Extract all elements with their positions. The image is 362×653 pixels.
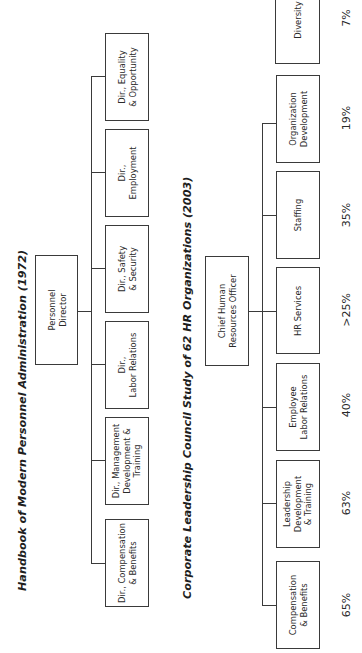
- chart2-root-box: Chief Human Resources Officer: [205, 256, 249, 366]
- chart1-root-connector: [77, 311, 92, 312]
- chart1-root-label: Personnel Director: [46, 290, 67, 331]
- chart2-spine: [262, 123, 263, 605]
- chart2-box-employee-labor-relations: Employee Labor Relations: [276, 363, 320, 451]
- pct-compensation-benefits: 65%: [340, 593, 353, 617]
- chart2-connector: [262, 503, 276, 504]
- chart1-box-employment: Dir., Employment: [105, 129, 149, 217]
- chart1-connector: [91, 268, 105, 269]
- chart1-spine: [91, 76, 92, 564]
- chart1-connector: [91, 460, 105, 461]
- box-label: Dir., Compensation & Benefits: [117, 523, 138, 603]
- pct-hr-services: >25%: [340, 293, 353, 327]
- chart1-connector: [91, 172, 105, 173]
- chart2-connector: [262, 407, 276, 408]
- pct-staffing: 35%: [340, 203, 353, 227]
- box-label: Dir., Employment: [117, 146, 138, 199]
- box-label: Dir., Equality & Opportunity: [117, 47, 138, 106]
- chart1-root-box: Personnel Director: [35, 255, 78, 365]
- pct-organization-development: 19%: [340, 106, 353, 130]
- box-label: Diversity: [292, 1, 303, 38]
- chart2-box-compensation-benefits: Compensation & Benefits: [276, 561, 320, 649]
- chart2-root-label: Chief Human Resources Officer: [217, 274, 238, 347]
- chart2-connector: [262, 311, 276, 312]
- box-label: Compensation & Benefits: [288, 575, 309, 635]
- pct-employee-labor-relations: 40%: [340, 393, 353, 417]
- chart1-box-equality-opportunity: Dir., Equality & Opportunity: [105, 33, 149, 121]
- box-label: Organization Development: [288, 91, 309, 147]
- chart2-box-organization-development: Organization Development: [276, 75, 320, 163]
- chart1-connector: [91, 563, 105, 564]
- chart2-box-diversity: Diversity: [275, 0, 320, 64]
- pct-diversity: 7%: [340, 9, 353, 26]
- box-label: Employee Labor Relations: [288, 375, 309, 440]
- chart1-box-compensation-benefits: Dir., Compensation & Benefits: [105, 519, 149, 607]
- chart1-connector: [91, 364, 105, 365]
- chart2-title: Corporate Leadership Council Study of 62…: [181, 177, 194, 599]
- box-label: Dir., Safety & Security: [117, 246, 138, 292]
- chart2-box-hr-services: HR Services: [276, 267, 320, 354]
- chart2-connector: [262, 605, 276, 606]
- box-label: Dir., Labor Relations: [117, 333, 138, 398]
- chart1-connector: [91, 76, 105, 77]
- chart1-box-labor-relations: Dir., Labor Relations: [105, 321, 149, 409]
- chart1-title: Handbook of Modern Personnel Administrat…: [16, 250, 29, 591]
- box-label: Staffing: [293, 199, 304, 231]
- box-label: HR Services: [293, 285, 304, 335]
- chart2-box-leadership-development: Leadership Development & Training: [276, 460, 320, 548]
- chart2-connector: [262, 123, 276, 124]
- chart2-box-staffing: Staffing: [276, 171, 320, 259]
- chart2-connector: [262, 215, 276, 216]
- box-label: Dir., Management Development & Training: [111, 424, 143, 499]
- pct-leadership-development: 63%: [340, 491, 353, 515]
- box-label: Leadership Development & Training: [282, 476, 314, 532]
- chart1-box-management-development: Dir., Management Development & Training: [105, 417, 149, 505]
- org-chart-comparison: Handbook of Modern Personnel Administrat…: [0, 0, 362, 653]
- chart1-box-safety-security: Dir., Safety & Security: [105, 225, 149, 313]
- chart2-root-connector: [248, 311, 263, 312]
